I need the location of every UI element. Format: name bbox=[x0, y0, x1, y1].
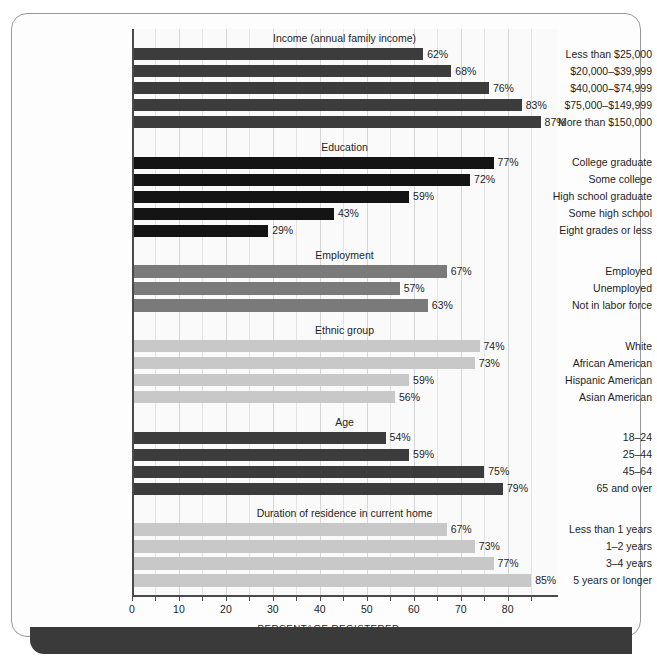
x-tick-20 bbox=[226, 596, 227, 601]
x-tick-label-40: 40 bbox=[314, 603, 326, 615]
bar-value-label: 77% bbox=[498, 557, 519, 569]
x-axis-line bbox=[132, 595, 558, 597]
x-tick-label-20: 20 bbox=[220, 603, 232, 615]
category-label: Hispanic American bbox=[529, 374, 657, 386]
category-label: Not in labor force bbox=[529, 299, 657, 311]
category-label: 25–44 bbox=[529, 448, 657, 460]
bar bbox=[132, 208, 334, 220]
category-label: Eight grades or less bbox=[529, 224, 657, 236]
x-tick-55 bbox=[390, 596, 391, 601]
group-title-5: Duration of residence in current home bbox=[132, 507, 557, 519]
bar bbox=[132, 299, 428, 311]
bar-value-label: 75% bbox=[488, 465, 509, 477]
bar-value-label: 72% bbox=[474, 173, 495, 185]
bar bbox=[132, 432, 386, 444]
bar-value-label: 29% bbox=[272, 224, 293, 236]
bar bbox=[132, 449, 409, 461]
category-label: African American bbox=[529, 357, 657, 369]
category-label: 45–64 bbox=[529, 465, 657, 477]
bar-value-label: 67% bbox=[451, 523, 472, 535]
group-title-4: Age bbox=[132, 416, 557, 428]
bar bbox=[132, 225, 268, 237]
category-label: Some college bbox=[529, 173, 657, 185]
bar bbox=[132, 374, 409, 386]
category-label: White bbox=[529, 340, 657, 352]
x-tick-60 bbox=[414, 596, 415, 601]
bar bbox=[132, 65, 451, 77]
x-tick-label-10: 10 bbox=[173, 603, 185, 615]
bar-value-label: 76% bbox=[493, 82, 514, 94]
category-label: 18–24 bbox=[529, 431, 657, 443]
x-tick-0 bbox=[132, 596, 133, 601]
x-tick-25 bbox=[249, 596, 250, 601]
x-tick-75 bbox=[484, 596, 485, 601]
group-title-2: Employment bbox=[132, 249, 557, 261]
category-label: 3–4 years bbox=[529, 557, 657, 569]
bar-value-label: 87% bbox=[545, 116, 566, 128]
category-label: 65 and over bbox=[529, 482, 657, 494]
bar bbox=[132, 157, 494, 169]
bar-value-label: 59% bbox=[413, 374, 434, 386]
bar-value-label: 62% bbox=[427, 48, 448, 60]
x-tick-30 bbox=[273, 596, 274, 601]
bar bbox=[132, 265, 447, 277]
x-tick-label-60: 60 bbox=[408, 603, 420, 615]
x-tick-label-50: 50 bbox=[361, 603, 373, 615]
bar bbox=[132, 574, 531, 586]
bar bbox=[132, 191, 409, 203]
x-tick-15 bbox=[202, 596, 203, 601]
group-title-3: Ethnic group bbox=[132, 324, 557, 336]
bar-value-label: 68% bbox=[455, 65, 476, 77]
group-title-1: Education bbox=[132, 141, 557, 153]
bar bbox=[132, 99, 522, 111]
bar-value-label: 73% bbox=[479, 540, 500, 552]
bar-value-label: 63% bbox=[432, 299, 453, 311]
bar-value-label: 43% bbox=[338, 207, 359, 219]
bar-value-label: 59% bbox=[413, 190, 434, 202]
bar-value-label: 85% bbox=[535, 574, 556, 586]
category-label: Less than 1 years bbox=[529, 523, 657, 535]
plot-area: Income (annual family income)EducationEm… bbox=[132, 29, 557, 596]
x-tick-label-30: 30 bbox=[267, 603, 279, 615]
bar bbox=[132, 116, 541, 128]
bar bbox=[132, 523, 447, 535]
x-tick-35 bbox=[296, 596, 297, 601]
category-label: $40,000–$74,999 bbox=[529, 82, 657, 94]
category-label: $20,000–$39,999 bbox=[529, 65, 657, 77]
bar bbox=[132, 82, 489, 94]
category-label: High school graduate bbox=[529, 190, 657, 202]
category-label: $75,000–$149,999 bbox=[529, 99, 657, 111]
x-tick-85 bbox=[531, 596, 532, 601]
footer-band bbox=[30, 627, 632, 654]
x-tick-label-0: 0 bbox=[129, 603, 135, 615]
category-label: Asian American bbox=[529, 391, 657, 403]
category-label: Unemployed bbox=[529, 282, 657, 294]
chart-figure: Income (annual family income)EducationEm… bbox=[0, 0, 657, 658]
bar bbox=[132, 557, 494, 569]
bar-value-label: 74% bbox=[484, 340, 505, 352]
bar-value-label: 83% bbox=[526, 99, 547, 111]
bar bbox=[132, 340, 480, 352]
category-label: Less than $25,000 bbox=[529, 48, 657, 60]
bar-value-label: 59% bbox=[413, 448, 434, 460]
y-axis-line bbox=[132, 29, 134, 596]
bar bbox=[132, 540, 475, 552]
x-tick-45 bbox=[343, 596, 344, 601]
bar bbox=[132, 282, 400, 294]
category-label: Some high school bbox=[529, 207, 657, 219]
bar-value-label: 79% bbox=[507, 482, 528, 494]
x-tick-label-80: 80 bbox=[502, 603, 514, 615]
bar-value-label: 73% bbox=[479, 357, 500, 369]
bar bbox=[132, 174, 470, 186]
x-tick-80 bbox=[508, 596, 509, 601]
category-label: College graduate bbox=[529, 156, 657, 168]
x-tick-70 bbox=[461, 596, 462, 601]
bar bbox=[132, 48, 423, 60]
category-label: Employed bbox=[529, 265, 657, 277]
bar bbox=[132, 483, 503, 495]
bar bbox=[132, 466, 484, 478]
x-tick-5 bbox=[155, 596, 156, 601]
x-tick-50 bbox=[367, 596, 368, 601]
x-tick-40 bbox=[320, 596, 321, 601]
x-tick-10 bbox=[179, 596, 180, 601]
